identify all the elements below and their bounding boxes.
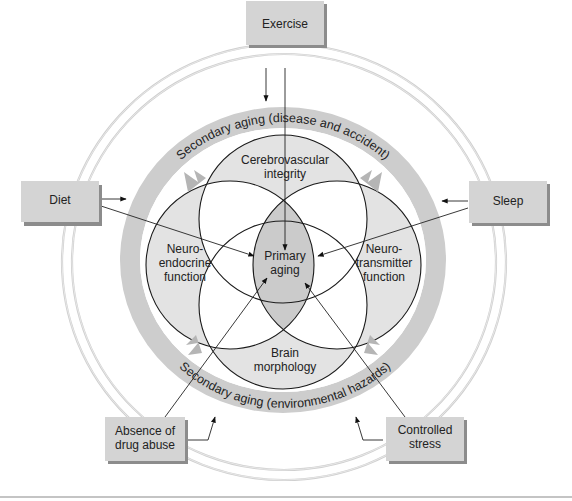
factor-controlled-stress: Controlled stress [386, 417, 467, 464]
svg-text:function: function [363, 270, 405, 284]
svg-text:Absence of: Absence of [115, 424, 176, 438]
svg-text:morphology: morphology [254, 360, 317, 374]
svg-text:Controlled: Controlled [398, 423, 453, 437]
svg-text:Neuro-: Neuro- [366, 242, 403, 256]
factor-diet: Diet [21, 181, 102, 226]
factor-exercise: Exercise [246, 1, 327, 48]
svg-text:Neuro-: Neuro- [167, 242, 204, 256]
svg-text:Exercise: Exercise [262, 17, 308, 31]
svg-text:Cerebrovascular: Cerebrovascular [241, 153, 329, 167]
svg-text:transmitter: transmitter [356, 256, 413, 270]
svg-text:aging: aging [270, 263, 299, 277]
arrow-drug-band [188, 417, 215, 440]
label-primary-aging: Primary aging [264, 249, 305, 277]
svg-text:integrity: integrity [264, 167, 306, 181]
factor-drug-abuse: Absence of drug abuse [105, 417, 188, 464]
factor-sleep: Sleep [469, 181, 550, 226]
arrow-stress-band [356, 417, 383, 440]
svg-text:Sleep: Sleep [493, 194, 524, 208]
svg-text:function: function [164, 270, 206, 284]
svg-text:Primary: Primary [264, 249, 305, 263]
svg-text:drug abuse: drug abuse [115, 438, 175, 452]
aging-diagram: Secondary aging (disease and accident) S… [0, 0, 572, 501]
svg-text:endocrine: endocrine [159, 256, 212, 270]
svg-text:Brain: Brain [271, 346, 299, 360]
svg-text:Diet: Diet [49, 193, 71, 207]
svg-text:stress: stress [409, 437, 441, 451]
